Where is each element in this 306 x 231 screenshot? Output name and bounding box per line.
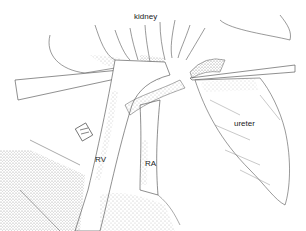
label-kidney: kidney (134, 13, 157, 21)
lower-center-tissue (100, 193, 175, 231)
kidney-outline (49, 15, 290, 73)
ureter-mass (195, 78, 290, 205)
illustration-canvas: kidney ureter RV RA (0, 0, 306, 231)
label-renal-vein: RV (95, 156, 106, 164)
retractor-left (15, 70, 120, 100)
label-ureter: ureter (234, 120, 255, 128)
kidney-dissection-drawing (0, 0, 306, 231)
vessel-clamp (75, 123, 92, 141)
label-renal-artery: RA (145, 160, 156, 168)
lower-left-tissue (0, 150, 85, 231)
